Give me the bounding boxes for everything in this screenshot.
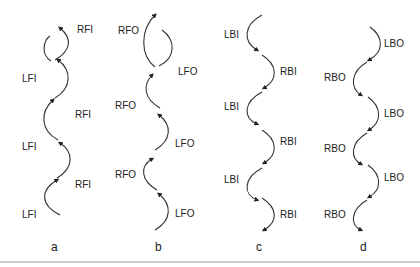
arrow-arc-icon — [368, 97, 379, 130]
arrow-arc-icon — [247, 15, 262, 50]
column-b: LFO RFO LFO RFO LFO RFO b — [115, 15, 198, 254]
step-label: LFI — [22, 73, 36, 84]
step-label: RFO — [115, 169, 136, 180]
step-label: LBI — [224, 29, 239, 40]
arrow-arc-icon — [57, 143, 70, 178]
arrow-arc-icon — [247, 168, 262, 200]
step-label: LFI — [22, 141, 36, 152]
step-label: LFO — [175, 138, 195, 149]
caption-a: a — [51, 240, 58, 254]
column-d: LBO RBO LBO RBO LBO RBO d — [324, 27, 404, 254]
caption-c: c — [256, 240, 262, 254]
step-label: LBO — [384, 38, 404, 49]
arrow-arc-icon — [144, 15, 155, 67]
caption-d: d — [360, 240, 367, 254]
arrow-arc-icon — [353, 62, 367, 95]
column-a: LFI RFI LFI RFI LFI RFI a — [22, 24, 93, 254]
step-label: RFO — [118, 25, 139, 36]
arrow-arc-icon — [262, 198, 274, 230]
arrow-arc-icon — [262, 130, 274, 163]
step-label: RBO — [324, 72, 346, 83]
step-label: RFI — [75, 179, 91, 190]
arrow-arc-icon — [262, 55, 274, 88]
step-label: RFI — [77, 24, 93, 35]
arrow-arc-icon — [55, 28, 68, 60]
arrow-arc-icon — [55, 60, 68, 98]
arrow-arc-icon — [44, 100, 58, 140]
arrow-arc-icon — [146, 75, 160, 108]
arrow-arc-icon — [144, 159, 157, 190]
step-label: LBI — [224, 174, 239, 185]
arrow-arc-icon — [155, 115, 168, 150]
step-label: RBI — [280, 209, 297, 220]
step-label: RBI — [280, 136, 297, 147]
arrow-arc-icon — [353, 133, 367, 164]
arrow-arc-icon — [353, 200, 367, 230]
step-label: LFI — [22, 209, 36, 220]
step-label: LBO — [384, 172, 404, 183]
arrow-arc-icon — [155, 194, 168, 230]
caption-b: b — [155, 240, 162, 254]
column-c: LBI RBI LBI RBI LBI RBI c — [224, 15, 297, 254]
step-label: LFO — [178, 66, 198, 77]
step-label: LBO — [384, 108, 404, 119]
step-label: RBO — [324, 143, 346, 154]
arrow-arc-icon — [368, 165, 379, 197]
arrow-arc-icon — [247, 92, 262, 124]
step-label: RFI — [75, 109, 91, 120]
step-label: LBI — [224, 101, 239, 112]
step-label: RFO — [115, 100, 136, 111]
arrow-arc-icon — [369, 27, 380, 60]
step-label: RBO — [324, 209, 346, 220]
arrow-arc-icon — [159, 30, 172, 66]
turns-diagram: LFI RFI LFI RFI LFI RFI a LFO RFO LFO RF… — [0, 0, 420, 267]
arrow-arc-icon — [44, 36, 51, 61]
step-label: RBI — [280, 66, 297, 77]
step-label: LFO — [175, 208, 195, 219]
arrow-arc-icon — [45, 180, 60, 215]
